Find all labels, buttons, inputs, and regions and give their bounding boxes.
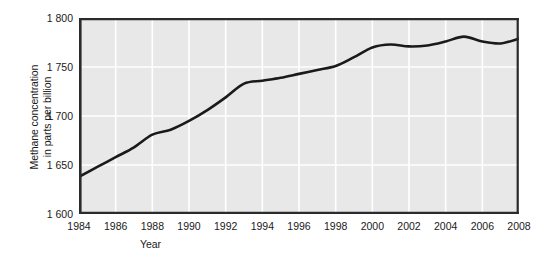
x-tick-label-2006: 2006 [471, 221, 494, 232]
y-tick-label-1600: 1 600 [40, 209, 73, 220]
x-axis-tick-labels: 1984198619881990199219941996199820002002… [0, 221, 539, 235]
x-tick-label-1986: 1986 [104, 221, 127, 232]
x-axis-title: Year [0, 239, 539, 250]
x-axis-title-text: Year [140, 239, 161, 250]
y-tick-label-1750: 1 750 [40, 62, 73, 73]
x-tick-label-1992: 1992 [214, 221, 237, 232]
x-tick-label-2004: 2004 [434, 221, 457, 232]
x-tick-label-1990: 1990 [177, 221, 200, 232]
plot-area [79, 18, 519, 214]
x-tick-label-1994: 1994 [251, 221, 274, 232]
x-tick-label-1998: 1998 [324, 221, 347, 232]
x-tick-label-1984: 1984 [67, 221, 90, 232]
x-tick-label-2000: 2000 [361, 221, 384, 232]
clipped-caption-strip [0, 264, 539, 270]
y-tick-label-1800: 1 800 [40, 13, 73, 24]
methane-concentration-chart: Methane concentration in parts per billi… [0, 0, 539, 270]
y-tick-label-1650: 1 650 [40, 160, 73, 171]
x-tick-label-2002: 2002 [397, 221, 420, 232]
x-tick-label-1988: 1988 [141, 221, 164, 232]
x-tick-label-1996: 1996 [287, 221, 310, 232]
x-tick-label-2008: 2008 [507, 221, 530, 232]
y-tick-label-1700: 1 700 [40, 111, 73, 122]
chart-svg [79, 18, 519, 214]
